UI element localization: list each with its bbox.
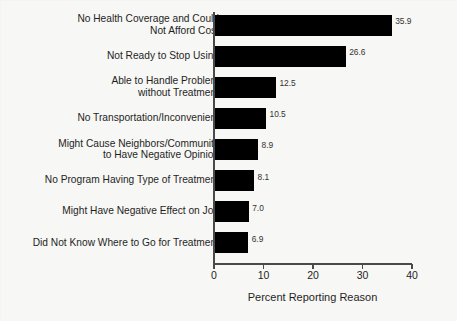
category-label: No Program Having Type of Treatment: [7, 174, 219, 185]
bar: [214, 170, 254, 191]
x-tick-label: 20: [307, 269, 319, 281]
bar-value-label: 10.5: [269, 110, 285, 119]
bar: [214, 201, 249, 222]
bar-chart: No Health Coverage and Could Not Afford …: [0, 0, 457, 321]
category-label: Might Have Negative Effect on Job: [7, 205, 219, 216]
x-tick-label: 10: [258, 269, 270, 281]
category-label: No Health Coverage and Could Not Afford …: [7, 13, 219, 36]
category-label: Did Not Know Where to Go for Treatment: [7, 237, 219, 248]
bar: [214, 108, 266, 129]
bar-value-label: 8.1: [258, 173, 270, 182]
x-tick-label: 0: [211, 269, 217, 281]
y-axis-line: [213, 12, 215, 264]
bar: [214, 139, 258, 160]
bar: [214, 232, 248, 253]
bar: [214, 77, 276, 98]
bar: [214, 15, 392, 36]
bar: [214, 46, 346, 67]
bar-value-label: 8.9: [262, 141, 274, 150]
bar-value-label: 7.0: [252, 204, 264, 213]
bar-value-label: 35.9: [395, 17, 411, 26]
category-label: No Transportation/Inconvenient: [7, 112, 219, 123]
bar-value-label: 6.9: [252, 235, 264, 244]
x-tick-label: 40: [406, 269, 418, 281]
x-axis-title: Percent Reporting Reason: [213, 291, 412, 303]
bar-value-label: 26.6: [349, 48, 365, 57]
category-label: Able to Handle Problem without Treatment: [7, 75, 219, 98]
category-label: Might Cause Neighbors/Community to Have …: [7, 138, 219, 161]
category-label: Not Ready to Stop Using: [7, 50, 219, 61]
x-tick-label: 30: [357, 269, 369, 281]
bar-value-label: 12.5: [279, 79, 295, 88]
